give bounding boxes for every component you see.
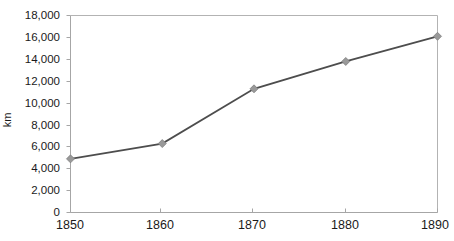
- x-tick-label: 1890: [421, 218, 449, 232]
- data-point-marker: [434, 32, 442, 40]
- y-axis-ticks: [67, 16, 71, 213]
- data-series-markers: [67, 32, 442, 163]
- data-point-marker: [342, 57, 350, 65]
- x-tick-label: 1850: [56, 218, 84, 232]
- line-chart: km 18,000 16,000 14,000 12,000 10,000 8,…: [0, 0, 454, 241]
- x-tick-label: 1880: [331, 218, 359, 232]
- data-point-marker: [158, 140, 166, 148]
- data-point-marker: [67, 155, 75, 163]
- data-point-marker: [250, 85, 258, 93]
- x-axis-ticks: [71, 209, 438, 213]
- x-axis-tick-labels: 1850 1860 1870 1880 1890: [0, 218, 454, 240]
- x-tick-label: 1870: [238, 218, 266, 232]
- plot-area: [0, 0, 454, 241]
- data-series-line: [71, 36, 438, 159]
- x-tick-label: 1860: [146, 218, 174, 232]
